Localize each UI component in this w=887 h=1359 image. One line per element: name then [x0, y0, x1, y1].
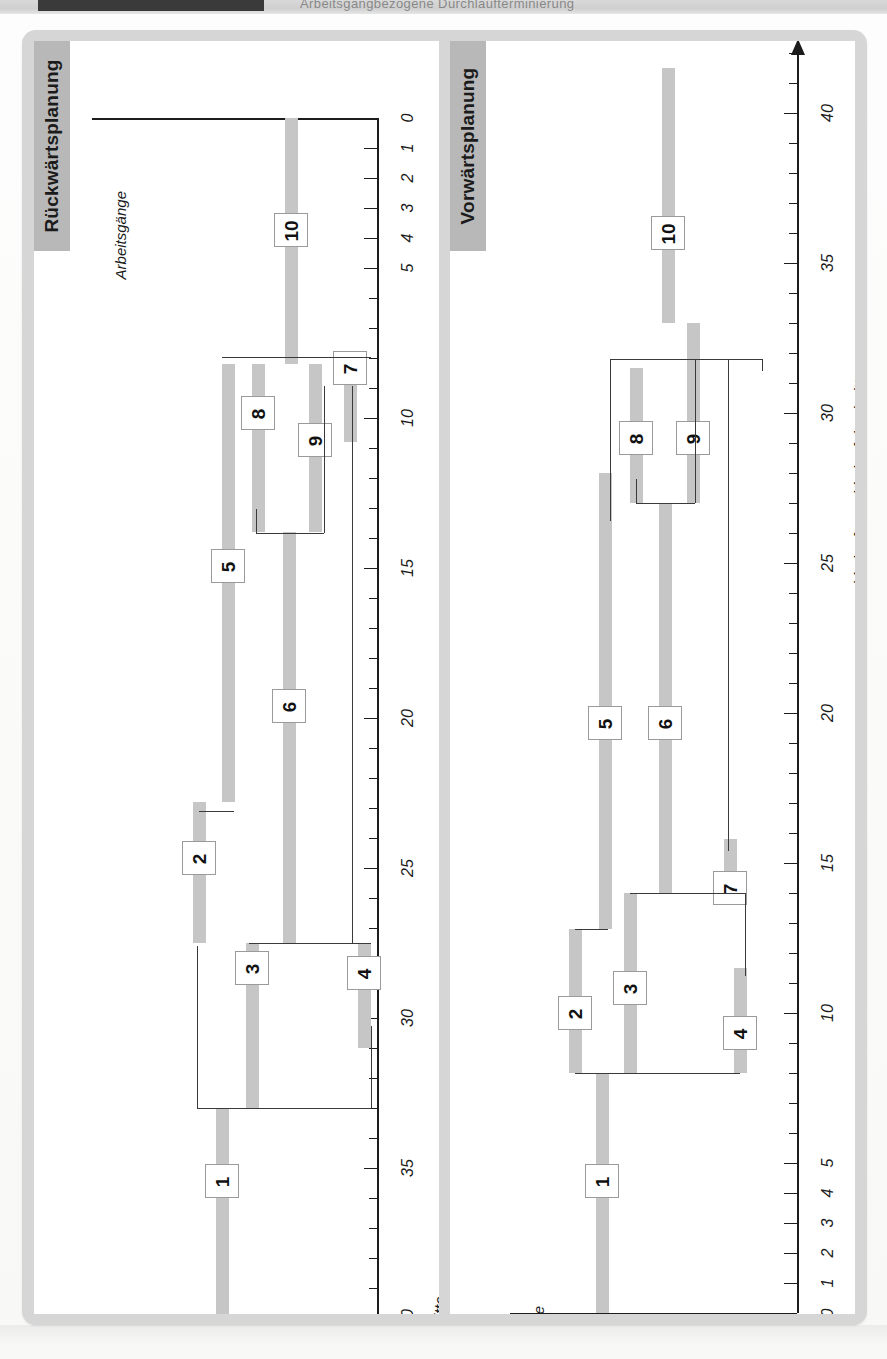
operation-label-box: 3 [613, 971, 647, 1005]
operation-label-box: 4 [723, 1016, 757, 1050]
axis-tick [369, 448, 377, 449]
axis-tick [789, 653, 797, 654]
operation-label-box: 1 [205, 1164, 239, 1198]
dependency-connector [636, 503, 695, 504]
operation-label: 2 [559, 997, 593, 1031]
operation-label: 10 [275, 214, 309, 248]
axis-tick [789, 383, 797, 384]
axis-tick [369, 808, 377, 809]
dependency-connector [222, 357, 371, 358]
dependency-connector [762, 359, 763, 371]
header-tab-block [38, 0, 264, 11]
axis-tick [789, 53, 797, 54]
axis-tick [369, 1228, 377, 1229]
operation-label: 8 [620, 422, 654, 456]
operation-label-box: 8 [241, 396, 275, 430]
axis-tick [364, 418, 377, 419]
axis-tick-label: 15 [819, 854, 837, 872]
axis-tick [789, 83, 797, 84]
dependency-connector [352, 386, 353, 943]
axis-tick [369, 598, 377, 599]
operation-label-box: 6 [272, 689, 306, 723]
axis-tick [784, 713, 797, 714]
operation-label-box: 2 [558, 996, 592, 1030]
axis-tick [789, 1073, 797, 1074]
dependency-connector [324, 386, 325, 533]
axis-title: Vorlauftage, Vorlaufabschnitte [852, 371, 855, 584]
dependency-connector [610, 359, 611, 521]
operation-bar [216, 1108, 229, 1314]
axis-tick [789, 443, 797, 444]
operation-label-box: 7 [713, 871, 747, 905]
axis-tick [789, 1043, 797, 1044]
axis-tick-label: 40 [399, 1309, 417, 1314]
axis-tick [789, 923, 797, 924]
axis-tick [369, 478, 377, 479]
axis-tick-label: 30 [819, 404, 837, 422]
axis-tick [789, 353, 797, 354]
operation-label: 3 [614, 972, 648, 1006]
figure-inner: Rückwärtsplanung01234510152025303540Vorl… [34, 41, 855, 1314]
axis-tick [789, 953, 797, 954]
axis-tick-label: 40 [819, 104, 837, 122]
operation-bar [599, 473, 612, 929]
operation-label-box: 10 [651, 216, 685, 250]
axis-tick [789, 833, 797, 834]
operation-label-box: 3 [235, 951, 269, 985]
axis-tick [369, 298, 377, 299]
axis-tick [789, 533, 797, 534]
axis-tick [364, 178, 377, 179]
axis-tick-label: 20 [819, 704, 837, 722]
axis-tick-label: 2 [819, 1249, 837, 1258]
axis-tick [369, 538, 377, 539]
dependency-connector [199, 811, 234, 812]
axis-tick-label: 35 [819, 254, 837, 272]
dependency-connector [745, 893, 746, 976]
panel-vorwaertsplanung: Vorwärtsplanung01234510152025303540Vorla… [450, 41, 855, 1314]
operation-label: 8 [242, 397, 276, 431]
operation-axis [92, 118, 377, 120]
operation-label-box: 10 [274, 213, 308, 247]
axis-tick [789, 683, 797, 684]
dependency-connector [695, 359, 696, 503]
axis-tick [784, 563, 797, 564]
dependency-connector [728, 359, 729, 851]
operation-bar [283, 532, 296, 943]
axis-tick [364, 868, 377, 869]
axis-tick [369, 1258, 377, 1259]
axis-tick-label: 25 [819, 554, 837, 572]
page-edge-shadow [0, 1325, 887, 1345]
axis-tick [789, 773, 797, 774]
dependency-connector [197, 946, 198, 1108]
axis-tick-label: 0 [399, 114, 417, 123]
axis-tick [784, 1223, 797, 1224]
axis-tick [364, 268, 377, 269]
panel-divider [439, 41, 450, 1314]
axis-tick [789, 473, 797, 474]
operation-label-box: 1 [585, 1164, 619, 1198]
axis-tick [789, 503, 797, 504]
axis-tick-label: 25 [399, 859, 417, 877]
axis-tick [784, 413, 797, 414]
operation-bar [659, 503, 672, 893]
operation-label-box: 8 [619, 421, 653, 455]
axis-tick [784, 263, 797, 264]
axis-tick-label: 30 [399, 1009, 417, 1027]
operation-bar [662, 68, 675, 323]
operation-label-box: 2 [182, 841, 216, 875]
axis-tick [784, 863, 797, 864]
operation-label: 10 [652, 217, 686, 251]
axis-tick [369, 328, 377, 329]
operation-axis [510, 1313, 797, 1314]
axis-tick [369, 1138, 377, 1139]
operation-label: 3 [236, 952, 270, 986]
axis-tick [784, 1283, 797, 1284]
axis-tick-label: 5 [399, 264, 417, 273]
dependency-connector [197, 1108, 371, 1109]
axis-tick-label: 3 [819, 1219, 837, 1228]
operation-bar [252, 364, 265, 532]
axis-tick [784, 1013, 797, 1014]
operation-label-box: 6 [648, 706, 682, 740]
axis-tick [369, 508, 377, 509]
axis-title: Vorlauftage, Vorlaufabschnitte [432, 1296, 439, 1314]
